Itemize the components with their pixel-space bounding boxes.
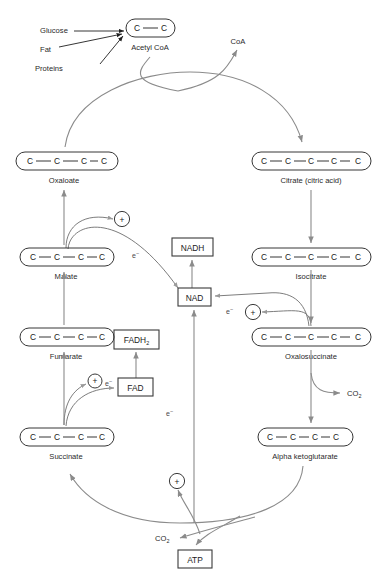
plus-node-isocitrate: + (245, 304, 260, 319)
plus-symbol: + (251, 308, 256, 318)
carbon-symbol: C (27, 156, 33, 166)
molecule-label-citrate: Citrate (citric acid) (280, 176, 342, 185)
carbon-symbol: C (331, 252, 337, 262)
carbon-symbol: C (78, 332, 84, 342)
byproduct-label-co2-right: CO2 (347, 389, 361, 399)
carbon-symbol: C (81, 156, 87, 166)
carbon-symbol: C (261, 332, 267, 342)
succinate-electron-curves (64, 384, 114, 426)
carbon-symbol: C (312, 432, 318, 442)
carbon-symbol: C (355, 252, 361, 262)
arc-alphakg-to-succinate (70, 466, 303, 523)
nad-label: NAD (186, 293, 204, 303)
molecule-acetyl-coa: C C (126, 19, 175, 37)
byproduct-label-coa: CoA (231, 37, 247, 46)
carbon-symbol: C (285, 332, 291, 342)
arc-oxaloate-to-citrate (65, 72, 302, 147)
electron-label-center: e− (166, 408, 173, 417)
top-entry-curves (140, 50, 237, 91)
molecule-label-malate: Malate (55, 272, 78, 281)
molecule-oxalosuccinate: C C C C C (252, 328, 371, 346)
molecule-oxaloate: C C C C (16, 152, 118, 170)
carbon-symbol: C (355, 156, 361, 166)
carbon-symbol: C (99, 252, 105, 262)
plus-symbol: + (93, 376, 98, 386)
molecule-label-alpha-ketoglutarate: Alpha ketoglutarate (272, 452, 337, 461)
carbon-symbol: C (99, 332, 105, 342)
arrow-co2-release-right (311, 373, 340, 393)
atp-label: ATP (187, 555, 203, 565)
carbon-symbol: C (285, 252, 291, 262)
molecule-succinate: C C C C (20, 428, 114, 446)
input-label-glucose: Glucose (40, 26, 68, 35)
carbon-symbol: C (290, 432, 296, 442)
cofactor-box-atp: ATP (178, 550, 212, 568)
carbon-symbol: C (30, 332, 36, 342)
molecule-label-acetyl-coa: Acetyl CoA (131, 43, 169, 52)
electron-label-malate: e− (132, 250, 139, 259)
molecule-label-fumarate: Fumarate (50, 352, 83, 361)
carbon-symbol: C (285, 156, 291, 166)
carbon-symbol: C (101, 156, 107, 166)
carbon-symbol: C (308, 332, 314, 342)
carbon-symbol: C (54, 332, 60, 342)
cofactor-box-fad: FAD (118, 378, 153, 396)
carbon-symbol: C (355, 332, 361, 342)
electron-label-succinate: e− (105, 378, 112, 387)
carbon-symbol: C (30, 432, 36, 442)
carbon-symbol: C (30, 252, 36, 262)
molecule-label-oxaloate: Oxaloate (49, 176, 79, 185)
carbon-symbol: C (308, 252, 314, 262)
carbon-symbol: C (54, 252, 60, 262)
carbon-symbol: C (261, 252, 267, 262)
cofactor-box-nadh: NADH (172, 238, 213, 256)
input-feeder-arrows (59, 31, 124, 64)
arrow-to-plus-bottom (178, 490, 200, 534)
carbon-symbol: C (54, 156, 60, 166)
arrow-to-atp (196, 516, 240, 545)
plus-symbol: + (120, 215, 125, 225)
molecule-alpha-ketoglutarate: C C C C (258, 428, 353, 446)
krebs-cycle-diagram: Glucose Fat Proteins C C Acetyl CoA CoA … (0, 0, 391, 583)
carbon-symbol: C (333, 432, 339, 442)
carbon-symbol: C (78, 432, 84, 442)
molecule-isocitrate: C C C C C (252, 248, 371, 266)
carbon-symbol: C (134, 23, 140, 33)
arrow-co2-release-bottom (180, 517, 255, 538)
nadh-label: NADH (181, 243, 205, 253)
molecule-citrate: C C C C C (252, 152, 371, 170)
carbon-symbol: C (267, 432, 273, 442)
plus-node-succinate: + (88, 374, 102, 388)
electron-label-isocitrate: e− (226, 306, 233, 315)
plus-symbol: + (175, 477, 180, 487)
input-label-proteins: Proteins (35, 64, 63, 73)
cofactor-box-fadh2: FADH2 (114, 330, 159, 349)
carbon-symbol: C (54, 432, 60, 442)
plus-node-bottom: + (169, 473, 184, 488)
molecule-malate: C C C C (20, 248, 114, 266)
plus-node-malate: + (114, 211, 129, 226)
byproduct-label-co2-bottom: CO2 (155, 534, 169, 544)
molecule-fumarate: C C C C (20, 328, 114, 346)
cofactor-box-nad: NAD (178, 288, 211, 306)
fadh2-label: FADH2 (124, 335, 149, 346)
carbon-symbol: C (331, 156, 337, 166)
input-label-fat: Fat (40, 45, 52, 54)
fad-label: FAD (127, 383, 143, 393)
carbon-symbol: C (261, 156, 267, 166)
carbon-symbol: C (78, 252, 84, 262)
carbon-symbol: C (308, 156, 314, 166)
carbon-symbol: C (161, 23, 167, 33)
molecule-label-succinate: Succinate (49, 452, 82, 461)
carbon-symbol: C (99, 432, 105, 442)
carbon-symbol: C (331, 332, 337, 342)
